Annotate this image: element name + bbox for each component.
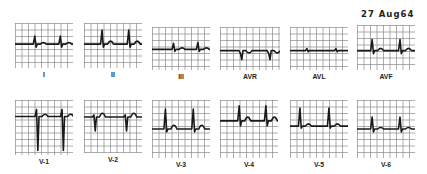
ecg-grid [357,25,415,70]
ecg-grid [15,23,73,68]
ecg-trace [357,117,415,132]
ecg-lead-v-6 [357,100,415,158]
lead-label: V-4 [224,160,273,169]
ecg-grid [220,27,280,70]
ecg-lead-ii [84,23,142,68]
ecg-trace [220,51,280,60]
ecg-grid [152,27,210,70]
ecg-lead-v-1 [15,100,73,155]
ecg-trace [220,106,278,126]
ecg-trace [84,30,142,47]
ecg-lead-avr [220,27,280,70]
ecg-grid [290,27,348,70]
ecg-lead-v-2 [84,100,142,153]
lead-label: V-5 [294,160,343,169]
lead-label: II [88,70,137,79]
ecg-trace [84,113,142,131]
lead-label: V-6 [361,160,410,169]
ecg-grid [357,100,415,158]
ecg-lead-avf [357,25,415,70]
lead-label: AVR [225,72,276,81]
ecg-trace [152,109,210,132]
lead-label: V-1 [19,157,68,166]
ecg-lead-iii [152,27,210,70]
ecg-trace [15,36,73,47]
lead-label: AVL [294,72,343,81]
ecg-lead-v-4 [220,100,278,158]
ecg-grid [15,100,73,155]
lead-label: V-3 [156,160,205,169]
ecg-lead-avl [290,27,348,70]
ecg-grid [84,23,142,68]
ecg-grid [84,100,142,153]
ecg-trace [290,108,348,128]
ecg-lead-v-3 [152,100,210,158]
date-label: 27 Aug64 [361,9,414,19]
lead-label: V-2 [88,155,137,164]
ecg-grid [220,100,278,158]
ecg-trace [290,49,348,52]
lead-label: AVF [361,72,410,81]
ecg-grid [290,100,348,158]
lead-label: I [19,70,68,79]
ecg-lead-i [15,23,73,68]
lead-label: III [156,72,205,81]
ecg-grid [152,100,210,158]
ecg-trace [15,110,73,151]
ecg-lead-v-5 [290,100,348,158]
